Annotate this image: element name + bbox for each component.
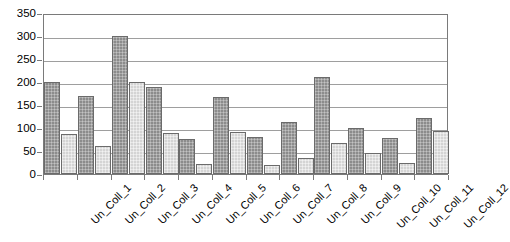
x-axis-tick-mark xyxy=(414,175,415,180)
bar xyxy=(179,139,195,174)
x-axis-tick-mark xyxy=(246,175,247,180)
y-axis-tick-mark xyxy=(37,175,42,176)
bar-group xyxy=(44,15,78,174)
y-axis-tick-mark xyxy=(37,37,42,38)
y-axis-tick-mark xyxy=(37,14,42,15)
x-axis-tick-mark xyxy=(212,175,213,180)
y-axis: 050100150200250300350 xyxy=(0,14,38,175)
y-axis-tick-mark xyxy=(37,60,42,61)
bar xyxy=(348,128,364,174)
bar xyxy=(382,138,398,174)
x-axis-tick-mark xyxy=(111,175,112,180)
plot-area xyxy=(43,14,448,175)
bar xyxy=(230,132,246,174)
y-axis-tick-label: 150 xyxy=(0,100,36,112)
x-axis-tick-mark xyxy=(178,175,179,180)
bar xyxy=(112,36,128,174)
bar xyxy=(365,153,381,174)
bar xyxy=(44,82,60,174)
bar xyxy=(146,87,162,174)
x-axis-tick-mark xyxy=(448,175,449,180)
bar-group xyxy=(112,15,146,174)
bar-group xyxy=(145,15,179,174)
bar xyxy=(129,82,145,174)
bar xyxy=(78,96,94,174)
bar xyxy=(213,97,229,174)
bar xyxy=(331,143,347,174)
bar xyxy=(247,137,263,174)
x-axis-tick-mark xyxy=(381,175,382,180)
x-axis-tick-mark xyxy=(43,175,44,180)
bar xyxy=(416,118,432,174)
bar xyxy=(298,158,314,174)
bar xyxy=(314,77,330,174)
bar xyxy=(95,146,111,174)
bar xyxy=(433,131,449,174)
y-axis-tick-label: 250 xyxy=(0,54,36,66)
y-axis-tick-mark xyxy=(37,152,42,153)
bar-group xyxy=(280,15,314,174)
x-axis-tick-mark xyxy=(77,175,78,180)
x-axis-tick-mark xyxy=(347,175,348,180)
bar-group xyxy=(78,15,112,174)
y-axis-tick-label: 200 xyxy=(0,77,36,89)
bar xyxy=(264,165,280,174)
x-axis-tick-mark xyxy=(144,175,145,180)
x-axis-tick-mark xyxy=(313,175,314,180)
bar xyxy=(399,163,415,174)
bar xyxy=(61,134,77,174)
bar-group xyxy=(348,15,382,174)
bar xyxy=(281,122,297,174)
bar-group xyxy=(415,15,449,174)
y-axis-tick-mark xyxy=(37,106,42,107)
y-axis-tick-label: 350 xyxy=(0,8,36,20)
bar-group xyxy=(382,15,416,174)
x-axis-tick-mark xyxy=(279,175,280,180)
bar-group xyxy=(213,15,247,174)
y-axis-tick-mark xyxy=(37,83,42,84)
y-axis-tick-mark xyxy=(37,129,42,130)
bar xyxy=(163,133,179,174)
y-axis-tick-label: 0 xyxy=(0,169,36,181)
y-axis-tick-label: 50 xyxy=(0,146,36,158)
bar-group xyxy=(179,15,213,174)
bar xyxy=(196,164,212,174)
y-axis-tick-label: 300 xyxy=(0,31,36,43)
bars-layer xyxy=(44,15,447,174)
y-axis-tick-label: 100 xyxy=(0,123,36,135)
bar-group xyxy=(314,15,348,174)
bar-group xyxy=(247,15,281,174)
